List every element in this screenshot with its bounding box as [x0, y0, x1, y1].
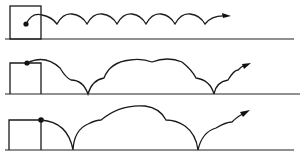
panel-3	[5, 106, 294, 150]
panel-2	[5, 59, 300, 94]
arrow-head-icon	[240, 110, 250, 117]
arrow-head-icon	[222, 13, 231, 18]
trajectory-path	[26, 14, 226, 24]
trajectory-path	[41, 106, 243, 150]
launch-box	[10, 63, 41, 94]
launch-box	[9, 120, 41, 150]
arrow-head-icon	[242, 63, 251, 69]
bounce-diagram	[0, 0, 307, 159]
panel-1	[5, 6, 294, 39]
trajectory-path	[27, 59, 245, 94]
